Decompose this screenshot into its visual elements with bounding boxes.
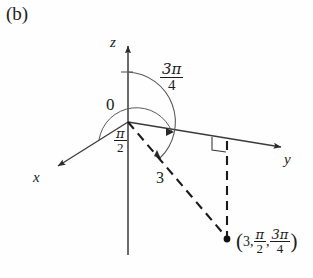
polar-numerator: 3π [160, 62, 183, 78]
azimuthal-denominator: 2 [114, 141, 127, 154]
point-theta-denominator: 2 [254, 242, 267, 255]
origin-label: 0 [106, 96, 115, 113]
polar-denominator: 4 [160, 78, 183, 93]
azimuthal-numerator: π [114, 127, 127, 141]
y-axis [128, 122, 281, 147]
paren-open: ( [236, 229, 243, 253]
polar-angle-label: 3π 4 [160, 62, 183, 94]
azimuthal-angle-label: π 2 [114, 127, 127, 155]
radius-label: 3 [156, 170, 164, 186]
point-phi-denominator: 4 [270, 242, 291, 255]
plotted-point [224, 236, 231, 243]
point-rho: 3 [243, 234, 250, 249]
spherical-coordinates-figure: (b) z y x 0 3 π 2 3π 4 (3, π 2 , 3π 4 ) [0, 0, 313, 278]
panel-tag: (b) [6, 4, 28, 23]
x-axis-label: x [33, 170, 40, 185]
point-coordinate-label: (3, π 2 , 3π 4 ) [236, 228, 297, 256]
paren-close: ) [290, 229, 297, 253]
right-angle-marker [212, 137, 226, 152]
point-phi-numerator: 3π [270, 228, 291, 242]
y-axis-label: y [284, 152, 291, 167]
z-axis-label: z [110, 35, 116, 50]
point-theta-numerator: π [254, 228, 267, 242]
